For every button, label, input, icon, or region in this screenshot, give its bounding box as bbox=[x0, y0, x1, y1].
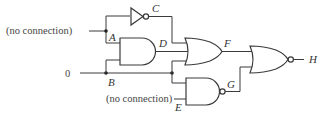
wire-b-to-nand bbox=[172, 73, 187, 83]
nand-gate bbox=[186, 78, 219, 105]
junction-a bbox=[104, 29, 108, 33]
or-gate bbox=[185, 38, 222, 65]
wire-c-to-or bbox=[149, 17, 187, 44]
input-b-text: 0 bbox=[65, 68, 70, 79]
nor-bubble bbox=[288, 57, 293, 62]
nor-gate bbox=[250, 46, 288, 73]
logic-circuit-diagram: (no connection) A C D 0 B F G (no connec… bbox=[0, 0, 332, 117]
label-c: C bbox=[152, 2, 160, 14]
inverter-gate bbox=[131, 8, 143, 25]
label-b: B bbox=[108, 76, 115, 88]
and-gate bbox=[120, 38, 156, 65]
nand-bubble bbox=[220, 89, 225, 94]
wire-b-to-or bbox=[172, 61, 187, 73]
inverter-bubble bbox=[143, 14, 148, 19]
label-a: A bbox=[108, 31, 116, 43]
wire-b-to-and bbox=[106, 60, 120, 73]
input-a-text: (no connection) bbox=[6, 25, 73, 37]
label-f: F bbox=[223, 37, 231, 49]
label-d: D bbox=[158, 37, 167, 49]
label-e: E bbox=[174, 101, 182, 113]
label-h: H bbox=[308, 53, 318, 65]
label-g: G bbox=[227, 78, 235, 90]
input-e-text: (no connection) bbox=[106, 93, 173, 105]
